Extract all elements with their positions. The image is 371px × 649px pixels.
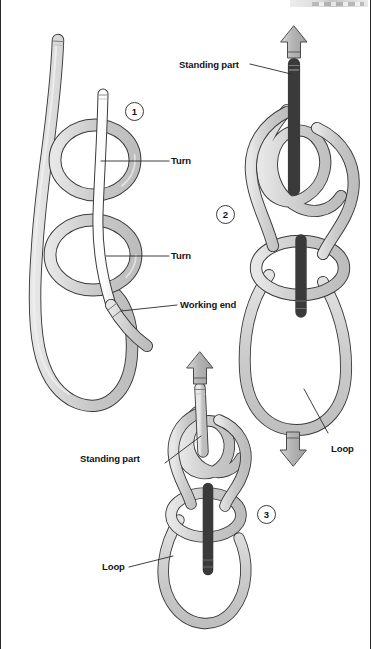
step-number-3: 3 [257, 505, 276, 524]
label-loop-step3: Loop [102, 562, 125, 572]
label-turn-lower: Turn [171, 251, 191, 261]
step-number-2: 2 [216, 205, 235, 224]
knot-illustration [1, 0, 371, 649]
step3-rope-assembly [163, 388, 246, 623]
step1-rope-assembly [33, 40, 147, 406]
knot-diagram-page: 1 2 3 Turn Turn Working end Standing par… [0, 0, 371, 649]
leader-standing-part-step2 [250, 64, 291, 74]
pull-up-arrow-step3 [187, 352, 213, 384]
step2-rope-assembly [245, 64, 354, 430]
pull-down-arrow-step2 [280, 432, 306, 466]
label-working-end: Working end [180, 300, 236, 310]
label-turn-upper: Turn [171, 156, 191, 166]
pull-up-arrow-step2 [281, 26, 307, 58]
label-standing-part-step3: Standing part [80, 454, 140, 464]
label-standing-part-step2: Standing part [179, 60, 239, 70]
step-number-1: 1 [125, 102, 144, 121]
label-loop-step2: Loop [331, 444, 354, 454]
